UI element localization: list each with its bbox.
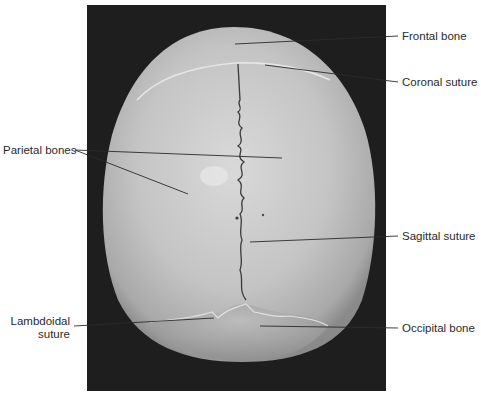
label-occipital-bone: Occipital bone <box>402 322 475 335</box>
parietal-foramen-mark <box>235 216 238 219</box>
label-frontal-bone: Frontal bone <box>402 30 467 43</box>
parietal-foramen-mark <box>262 214 264 216</box>
parietal-eminence-highlight <box>200 166 228 186</box>
skull-superior-view-figure: Frontal bone Coronal suture Parietal bon… <box>0 0 481 398</box>
label-coronal-suture: Coronal suture <box>402 76 477 89</box>
label-sagittal-suture: Sagittal suture <box>402 230 476 243</box>
label-lambdoidal-line1: Lambdoidal <box>6 315 70 328</box>
label-parietal-bones: Parietal bones <box>3 144 77 157</box>
label-lambdoidal-suture: Lambdoidal suture <box>6 315 70 341</box>
label-lambdoidal-line2: suture <box>6 328 70 341</box>
skull-illustration <box>0 0 481 398</box>
